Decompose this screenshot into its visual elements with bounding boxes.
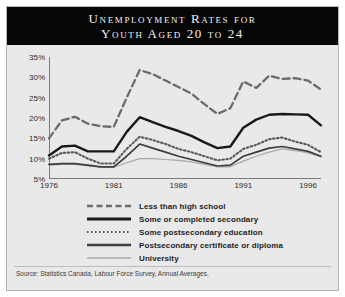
x-tick-label: 1986 xyxy=(170,181,188,190)
source-divider xyxy=(14,266,331,267)
legend-label: Some postsecondary education xyxy=(139,228,263,237)
legend-swatch xyxy=(86,201,132,211)
legend-swatch xyxy=(86,240,132,250)
source-note: Source: Statistics Canada, Labour Force … xyxy=(16,270,209,277)
x-tick-label: 1991 xyxy=(234,181,252,190)
x-tick-label: 1976 xyxy=(40,181,58,190)
legend-label: Postsecondary certificate or diploma xyxy=(139,241,283,250)
legend-label: University xyxy=(139,254,179,263)
y-tick-label: 25% xyxy=(5,93,45,102)
legend-swatch xyxy=(86,227,132,237)
plot-region: 5%10%15%20%25%30%35% 1976198119861991199… xyxy=(7,47,338,197)
y-tick-label: 20% xyxy=(5,114,45,123)
y-tick-label: 15% xyxy=(5,134,45,143)
y-tick-label: 5% xyxy=(5,175,45,184)
chart-figure: Unemployment Rates for Youth Aged 20 to … xyxy=(0,0,345,297)
series-lines xyxy=(49,57,321,179)
legend-item: University xyxy=(86,252,326,264)
legend-item: Some postsecondary education xyxy=(86,226,326,238)
series-line xyxy=(49,70,321,138)
series-line xyxy=(49,144,321,167)
legend-item: Postsecondary certificate or diploma xyxy=(86,239,326,251)
legend-item: Less than high school xyxy=(86,200,326,212)
legend-label: Some or completed secondary xyxy=(139,215,258,224)
legend-item: Some or completed secondary xyxy=(86,213,326,225)
y-tick-label: 30% xyxy=(5,73,45,82)
y-tick-label: 35% xyxy=(5,53,45,62)
title-banner: Unemployment Rates for Youth Aged 20 to … xyxy=(7,7,338,45)
y-tick-label: 10% xyxy=(5,154,45,163)
legend-swatch xyxy=(86,253,132,263)
x-tick-label: 1996 xyxy=(299,181,317,190)
legend-label: Less than high school xyxy=(139,202,226,211)
x-tick-label: 1981 xyxy=(105,181,123,190)
y-axis-ticks: 5%10%15%20%25%30%35% xyxy=(7,57,45,179)
plot-area xyxy=(49,57,321,179)
legend-swatch xyxy=(86,214,132,224)
chart-legend: Less than high schoolSome or completed s… xyxy=(86,200,326,265)
chart-title-line-1: Unemployment Rates for xyxy=(89,11,257,26)
series-line xyxy=(49,137,321,164)
chart-title-line-2: Youth Aged 20 to 24 xyxy=(101,26,244,41)
